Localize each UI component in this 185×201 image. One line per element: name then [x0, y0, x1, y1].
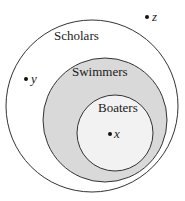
point-x-label: x [113, 126, 120, 141]
boaters-label: Boaters [98, 100, 138, 115]
point-y-label: y [29, 71, 37, 86]
point-y-dot [24, 77, 28, 81]
point-z-dot [145, 15, 149, 19]
point-z-label: z [151, 9, 157, 24]
scholars-label: Scholars [54, 28, 99, 43]
venn-diagram: Scholars Swimmers Boaters z y x [0, 0, 185, 201]
swimmers-label: Swimmers [72, 64, 128, 79]
point-x-dot [108, 132, 112, 136]
